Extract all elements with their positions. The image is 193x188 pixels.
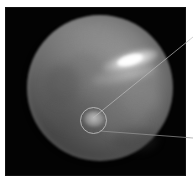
surface-patch-6 [113,127,157,151]
caption-strip [0,179,193,188]
figure-root [0,0,193,188]
surface-patch-4 [75,29,123,53]
annotation-circle [80,107,107,134]
surface-patch-5 [45,65,79,105]
disk-container [5,7,186,176]
astronomical-image-panel [5,7,186,176]
surface-patch-7 [123,87,159,113]
